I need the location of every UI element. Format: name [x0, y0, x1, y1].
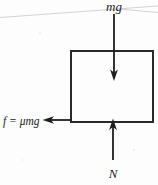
free-body-diagram: mg N f = μmg: [0, 0, 158, 185]
diagram-canvas: mg N f = μmg: [0, 0, 158, 185]
friction-force-arrow: [43, 116, 72, 124]
weight-force-arrow: [110, 14, 118, 81]
weight-label: mg: [106, 0, 122, 14]
normal-force-arrow: [109, 119, 117, 161]
friction-label: f = μmg: [3, 115, 40, 128]
normal-force-label: N: [108, 166, 119, 181]
block-outline: [71, 51, 153, 122]
scan-line-artifact: [0, 6, 158, 18]
